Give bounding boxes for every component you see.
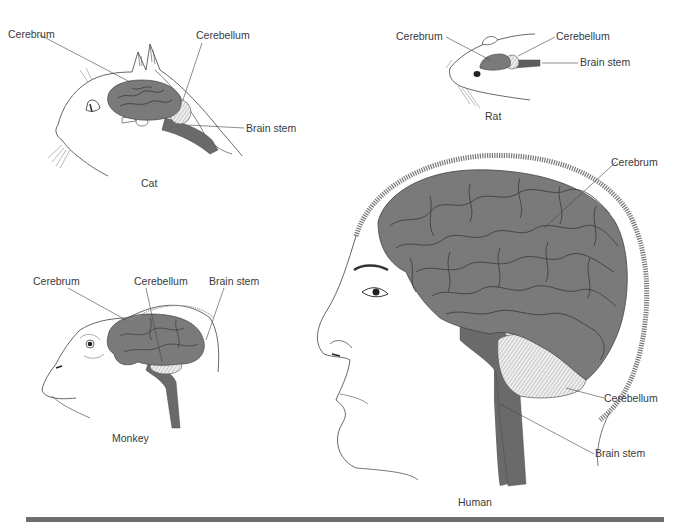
human-brain-stem-label: Brain stem bbox=[595, 447, 645, 459]
cat-illustration bbox=[40, 35, 244, 176]
rat-brain-stem-label: Brain stem bbox=[580, 56, 630, 68]
human-caption: Human bbox=[458, 496, 492, 508]
rat-illustration bbox=[446, 34, 578, 108]
human-cerebrum-label: Cerebrum bbox=[611, 156, 658, 168]
cat-cerebrum-label: Cerebrum bbox=[8, 28, 55, 40]
human-illustration bbox=[317, 155, 646, 486]
brain-comparison-illustration bbox=[0, 0, 694, 532]
cat-caption: Cat bbox=[141, 177, 157, 189]
rat-cerebellum-label: Cerebellum bbox=[556, 30, 610, 42]
rat-caption: Rat bbox=[485, 110, 501, 122]
monkey-caption: Monkey bbox=[112, 432, 149, 444]
monkey-cerebrum-label: Cerebrum bbox=[33, 275, 80, 287]
monkey-brain-stem-label: Brain stem bbox=[209, 275, 259, 287]
rat-cerebrum-label: Cerebrum bbox=[396, 30, 443, 42]
monkey-illustration bbox=[42, 288, 224, 428]
cat-cerebellum-label: Cerebellum bbox=[196, 29, 250, 41]
monkey-cerebellum-label: Cerebellum bbox=[134, 275, 188, 287]
cat-brain-stem-label: Brain stem bbox=[246, 122, 296, 134]
bottom-rule bbox=[26, 517, 664, 522]
human-cerebellum-label: Cerebellum bbox=[604, 392, 658, 404]
